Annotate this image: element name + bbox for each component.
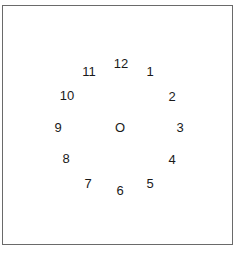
clock-number-2: 2 (168, 90, 175, 103)
clock-number-1: 1 (146, 65, 153, 78)
clock-number-4: 4 (168, 153, 175, 166)
clock-number-11: 11 (82, 65, 96, 78)
clock-number-12: 12 (114, 57, 128, 70)
clock-number-3: 3 (176, 121, 183, 134)
center-label: O (115, 121, 125, 134)
clock-number-7: 7 (84, 177, 91, 190)
clock-number-8: 8 (62, 152, 69, 165)
clock-number-10: 10 (60, 89, 74, 102)
clock-number-9: 9 (54, 121, 61, 134)
clock-number-5: 5 (146, 177, 153, 190)
clock-number-6: 6 (116, 184, 123, 197)
